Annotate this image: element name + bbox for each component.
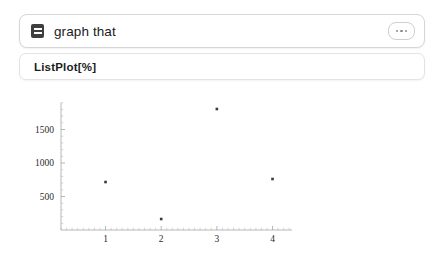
- query-input-text[interactable]: graph that: [54, 24, 388, 39]
- list-plot-svg: 500100015001234: [0, 90, 444, 263]
- y-tick-label: 1500: [35, 125, 54, 135]
- x-tick-label: 4: [270, 234, 275, 244]
- query-input-card[interactable]: graph that: [19, 14, 425, 48]
- data-point: [271, 178, 274, 181]
- x-tick-label: 3: [214, 234, 219, 244]
- y-tick-label: 500: [40, 192, 55, 202]
- data-point: [216, 108, 219, 111]
- x-tick-label: 2: [159, 234, 164, 244]
- y-tick-label: 1000: [35, 158, 54, 168]
- x-tick-label: 1: [103, 234, 108, 244]
- list-lines-icon: [31, 24, 44, 38]
- ellipsis-dot: [400, 30, 402, 32]
- code-output-text: ListPlot[%]: [34, 61, 96, 73]
- ellipsis-dot: [396, 30, 398, 32]
- code-output-card[interactable]: ListPlot[%]: [19, 53, 425, 80]
- ellipsis-icon[interactable]: [388, 22, 415, 40]
- data-point: [160, 218, 163, 221]
- data-point: [104, 181, 107, 184]
- ellipsis-dot: [405, 30, 407, 32]
- list-plot: 500100015001234: [0, 90, 444, 263]
